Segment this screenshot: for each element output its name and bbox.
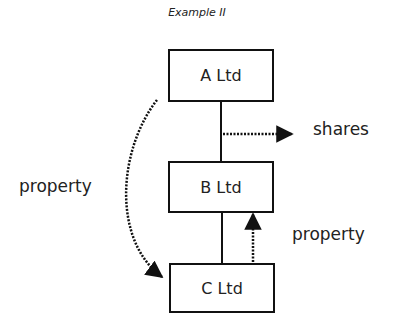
property-label-left: property bbox=[19, 176, 92, 196]
node-a-ltd: A Ltd bbox=[168, 49, 274, 102]
node-b-label: B Ltd bbox=[200, 178, 241, 197]
node-a-label: A Ltd bbox=[200, 66, 241, 85]
property-arrow-a-to-c bbox=[126, 100, 162, 277]
node-b-ltd: B Ltd bbox=[168, 161, 274, 213]
property-label-right: property bbox=[292, 224, 365, 244]
node-c-ltd: C Ltd bbox=[169, 263, 275, 313]
shares-label: shares bbox=[313, 119, 369, 139]
node-c-label: C Ltd bbox=[201, 279, 243, 298]
